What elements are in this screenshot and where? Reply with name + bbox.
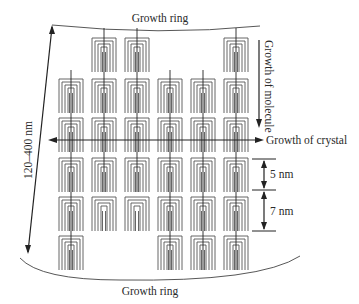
molecule-growth-label: Growth of molecule bbox=[263, 40, 275, 133]
bottom-growth-ring-label: Growth ring bbox=[122, 285, 179, 298]
molecule-growth-arrow-head bbox=[256, 119, 262, 128]
arrow-head bbox=[261, 181, 267, 189]
arrow-head bbox=[261, 191, 267, 199]
crystal-growth-arrow-head-left bbox=[48, 137, 57, 143]
arrow-head bbox=[261, 222, 267, 230]
thickness-arrow-head-bottom bbox=[25, 245, 31, 254]
top-growth-ring-label: Growth ring bbox=[132, 12, 189, 25]
polymer-crystal-diagram: Growth ring Growth ring 120–400 nm Growt… bbox=[0, 0, 359, 304]
crystal-growth-arrow-head-right bbox=[255, 137, 264, 143]
thickness-label: 120–400 nm bbox=[22, 121, 34, 179]
lamella-blocks bbox=[59, 38, 248, 270]
lamella-block bbox=[125, 197, 149, 231]
crystal-growth-label: Growth of crystal bbox=[266, 134, 347, 147]
thickness-arrow-head-top bbox=[49, 25, 55, 34]
spacing-7nm-label: 7 nm bbox=[270, 205, 293, 217]
arrow-head bbox=[261, 160, 267, 168]
spacing-5nm-label: 5 nm bbox=[270, 168, 293, 180]
top-growth-ring bbox=[52, 25, 260, 31]
lamella-block bbox=[92, 197, 116, 231]
molecule-chains bbox=[71, 28, 236, 270]
